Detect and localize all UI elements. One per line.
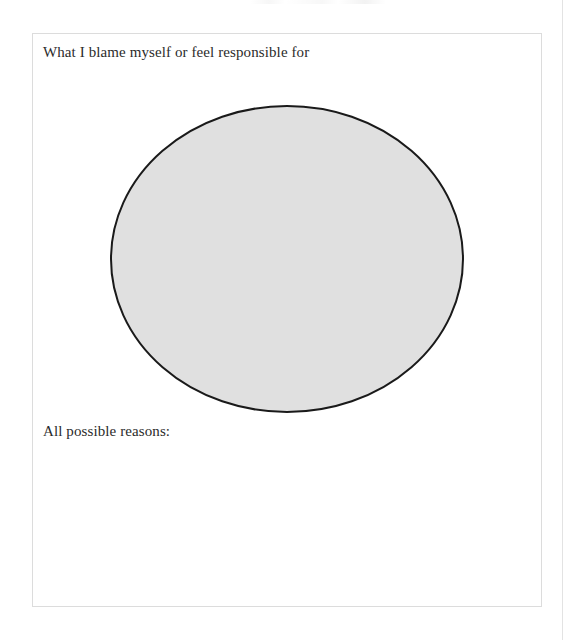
oval-shape-icon <box>109 104 465 414</box>
worksheet-card: What I blame myself or feel responsible … <box>32 33 542 607</box>
page-edge-rule <box>562 0 563 640</box>
scanned-page: What I blame myself or feel responsible … <box>0 0 572 640</box>
blame-oval-region[interactable] <box>109 104 465 414</box>
reasons-answer-area[interactable] <box>43 446 531 596</box>
page-title: What I blame myself or feel responsible … <box>43 42 309 62</box>
clipped-text-above-card <box>250 0 410 4</box>
reasons-label: All possible reasons: <box>43 421 170 441</box>
